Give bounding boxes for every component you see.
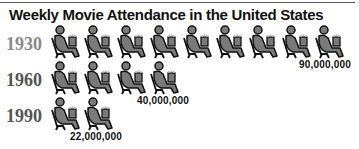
- moviegoer-icon: [281, 24, 315, 60]
- moviegoer-icon: [50, 60, 84, 96]
- moviegoer-icon: [83, 96, 117, 132]
- moviegoer-icon: [83, 24, 117, 60]
- moviegoer-icon: [314, 24, 348, 60]
- row-1990: 1990 22,000,000: [0, 96, 359, 136]
- value-label: 22,000,000: [70, 131, 122, 142]
- moviegoer-icon: [149, 24, 183, 60]
- top-rule: [0, 2, 355, 3]
- row-1960: 1960 40,000,000: [0, 60, 359, 100]
- moviegoer-icon: [116, 60, 150, 96]
- year-label: 1990: [6, 106, 42, 127]
- year-label: 1930: [6, 34, 42, 55]
- moviegoer-icon: [50, 96, 84, 132]
- moviegoer-icon: [149, 60, 183, 96]
- year-label: 1960: [6, 70, 42, 91]
- row-1930: 1930 90,000,000: [0, 24, 359, 64]
- moviegoer-icon: [182, 24, 216, 60]
- moviegoer-icon: [116, 24, 150, 60]
- moviegoer-icon: [50, 24, 84, 60]
- chart-title: Weekly Movie Attendance in the United St…: [9, 6, 323, 23]
- moviegoer-icon: [83, 60, 117, 96]
- moviegoer-icon: [215, 24, 249, 60]
- moviegoer-icon: [248, 24, 282, 60]
